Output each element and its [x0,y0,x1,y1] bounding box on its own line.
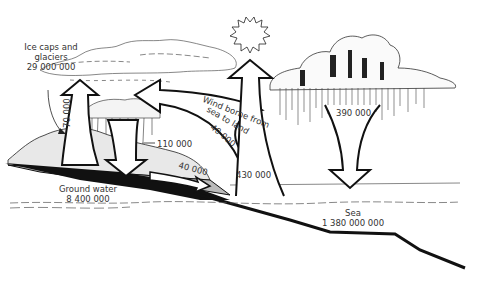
sea-value: 1 380 000 000 [318,218,388,228]
sun-icon [230,17,270,53]
sea-label: Sea 1 380 000 000 [318,208,388,228]
evaporation-sea-value: 430 000 [236,170,271,180]
sea-bed-line [200,195,465,268]
precipitation-land-value: 110 000 [157,139,192,149]
evaporation-land-value: 70 000 [62,98,72,128]
precipitation-sea-value: 390 000 [336,108,371,118]
ice-caps-label: Ice caps and glaciers 29 000 000 [22,42,80,72]
ice-caps-value: 29 000 000 [22,62,80,72]
groundwater-label: Ground water 8 400 000 [58,184,118,204]
groundwater-value: 8 400 000 [58,194,118,204]
ice-caps-line1: Ice caps and [22,42,80,52]
sea-line1: Sea [318,208,388,218]
ice-caps-line2: glaciers [22,52,80,62]
water-cycle-diagram: Ice caps and glaciers 29 000 000 70 000 … [0,0,482,285]
ice-cap-pointer-icon [48,90,62,132]
groundwater-line1: Ground water [58,184,118,194]
